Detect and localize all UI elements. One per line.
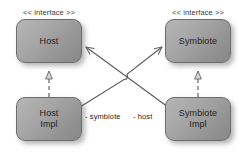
edge-label-symbiote: - symbiote [85,112,121,121]
edge-association-symbiote [80,47,162,107]
edge-association-host [86,47,168,107]
class-box-symbiote-impl[interactable]: Symbiote Impl [165,97,231,141]
class-box-host[interactable]: Host [16,19,82,63]
edge-label-host: - host [133,112,152,121]
class-name-host-impl: Host Impl [40,108,59,130]
uml-diagram-canvas: Host (label "- host"), drawn under the h… [0,0,243,158]
stereotype-host: << interface >> [16,8,82,17]
class-box-symbiote[interactable]: Symbiote [165,19,231,63]
class-box-host-impl[interactable]: Host Impl [16,97,82,141]
stereotype-symbiote: << interface >> [165,8,231,17]
class-name-symbiote-impl: Symbiote Impl [179,108,217,130]
class-name-symbiote: Symbiote [179,36,217,47]
class-name-host: Host [40,36,59,47]
